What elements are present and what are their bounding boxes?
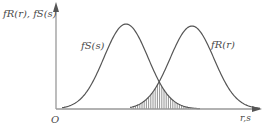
x-axis-arrow-icon — [252, 106, 262, 112]
stress-curve-label-text: fS(s) — [81, 40, 105, 51]
origin-label-text: O — [51, 114, 59, 125]
stress-curve-label: fS(s) — [81, 41, 105, 51]
y-axis-label: fR(r), fS(s) — [3, 9, 57, 19]
strength-curve-label-text: fR(r) — [211, 39, 235, 50]
y-axis-label-text: fR(r), fS(s) — [3, 8, 57, 19]
origin-label: O — [51, 115, 59, 125]
x-axis-label: r,s — [240, 114, 251, 123]
diagram-canvas — [0, 0, 271, 130]
strength-curve-label: fR(r) — [211, 40, 235, 50]
interference-diagram: fR(r), fS(s) fS(s) fR(r) r,s O — [0, 0, 271, 130]
interference-hatching — [131, 40, 197, 109]
strength-curve — [130, 26, 260, 108]
x-axis-label-text: r,s — [240, 113, 251, 123]
stress-curve — [62, 24, 200, 109]
